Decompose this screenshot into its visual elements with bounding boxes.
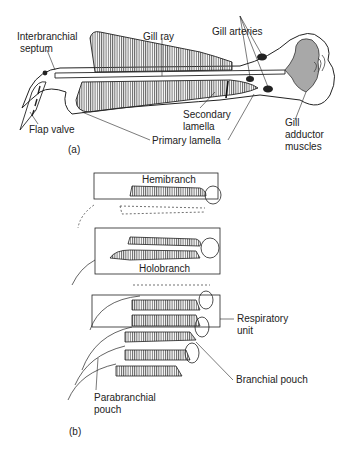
label-primary-lamella: Primary lamella (152, 135, 221, 146)
label-branchial-pouch: Branchial pouch (236, 374, 308, 385)
label-holobranch: Holobranch (139, 263, 190, 274)
label-respiratory-unit: Respiratory (237, 313, 288, 324)
label-interbranchial-septum-line2: septum (20, 43, 53, 54)
gill-types-schematic (68, 173, 234, 400)
label-gill-arteries: Gill arteries (212, 26, 263, 37)
label-respiratory-unit-line2: unit (237, 325, 253, 336)
label-hemibranch: Hemibranch (142, 174, 196, 185)
label-gill-adductor: Gill (285, 117, 299, 128)
label-flap-valve: Flap valve (29, 124, 75, 135)
gill-diagram (0, 0, 341, 454)
caption-a: (a) (68, 144, 80, 155)
label-parabranchial-pouch: Parabranchial (94, 392, 156, 403)
label-interbranchial-septum: Interbranchial (17, 31, 78, 42)
label-secondary-lamella-line2: lamella (183, 121, 215, 132)
label-gill-ray: Gill ray (143, 31, 174, 42)
label-secondary-lamella: Secondary (183, 109, 231, 120)
caption-b: (b) (69, 426, 81, 437)
label-parabranchial-pouch-line2: pouch (94, 404, 121, 415)
label-gill-adductor-line3: muscles (285, 141, 322, 152)
label-gill-adductor-line2: adductor (285, 129, 324, 140)
